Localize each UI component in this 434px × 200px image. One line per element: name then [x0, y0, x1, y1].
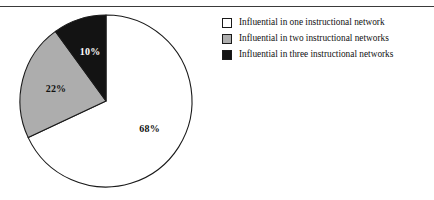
pie-chart-figure: 68% 22% 10% Influential in one instructi… [0, 0, 434, 200]
legend-item-two-networks[interactable]: Influential in two instructional network… [222, 31, 430, 46]
legend-label-two-networks: Influential in two instructional network… [239, 33, 389, 44]
legend-swatch-icon-three-networks [222, 50, 232, 60]
legend-item-one-network[interactable]: Influential in one instructional network [222, 15, 430, 30]
pie-label-two-networks: 22% [46, 83, 67, 94]
legend-item-three-networks[interactable]: Influential in three instructional netwo… [222, 47, 430, 62]
legend-swatch-icon-one-network [222, 18, 232, 28]
pie-label-three-networks: 10% [80, 46, 101, 57]
legend-label-one-network: Influential in one instructional network [239, 17, 385, 28]
legend-swatch-icon-two-networks [222, 34, 232, 44]
pie-label-one-network: 68% [139, 123, 160, 134]
chart-legend: Influential in one instructional network… [222, 15, 430, 63]
pie-chart-plot-area: 68% 22% 10% [19, 14, 193, 188]
pie-chart-svg: 68% 22% 10% [19, 14, 193, 188]
legend-label-three-networks: Influential in three instructional netwo… [239, 49, 393, 60]
figure-top-divider [0, 6, 434, 7]
